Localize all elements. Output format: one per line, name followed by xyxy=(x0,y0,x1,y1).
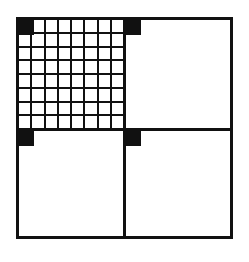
grid-cell xyxy=(99,103,110,115)
grid-cell xyxy=(46,34,57,46)
grid-cell xyxy=(72,61,83,73)
grid-cell xyxy=(72,89,83,101)
grid-cell xyxy=(59,20,70,32)
grid-cell xyxy=(59,48,70,60)
grid-cell xyxy=(46,20,57,32)
grid-cell xyxy=(112,116,123,128)
grid-cell xyxy=(72,20,83,32)
grid-cell xyxy=(72,48,83,60)
grid-cell xyxy=(19,89,30,101)
grid-cell xyxy=(32,89,43,101)
marker-bottom-left xyxy=(19,131,34,146)
grid-cell xyxy=(112,48,123,60)
grid-cell xyxy=(46,61,57,73)
grid-cell xyxy=(46,103,57,115)
grid-cell xyxy=(112,89,123,101)
grid-cell xyxy=(72,116,83,128)
grid-cell xyxy=(46,116,57,128)
horizontal-divider xyxy=(16,128,233,131)
grid-cell xyxy=(19,34,30,46)
grid-cell xyxy=(19,75,30,87)
marker-bottom-right xyxy=(126,131,141,146)
grid-cell xyxy=(99,61,110,73)
grid-cell xyxy=(59,89,70,101)
grid-cell xyxy=(19,61,30,73)
grid-cell xyxy=(32,75,43,87)
grid-cell xyxy=(59,34,70,46)
grid-cell xyxy=(99,89,110,101)
grid-cell xyxy=(46,89,57,101)
grid-cell xyxy=(19,103,30,115)
grid-cell xyxy=(72,75,83,87)
grid-cell xyxy=(32,116,43,128)
grid-cell xyxy=(46,75,57,87)
grid-cell xyxy=(99,48,110,60)
grid-cell xyxy=(112,20,123,32)
grid-cell xyxy=(32,48,43,60)
grid-cell xyxy=(46,48,57,60)
grid-cell xyxy=(72,34,83,46)
grid-cell xyxy=(112,75,123,87)
grid-cell xyxy=(59,103,70,115)
grid-cell xyxy=(112,103,123,115)
grid-cell xyxy=(99,20,110,32)
grid-cell xyxy=(59,75,70,87)
marker-top-right xyxy=(126,20,141,35)
grid-cell xyxy=(32,61,43,73)
grid-cell xyxy=(99,34,110,46)
grid-cell xyxy=(85,20,96,32)
grid-cell xyxy=(85,103,96,115)
grid-cell xyxy=(85,75,96,87)
grid-cell xyxy=(112,34,123,46)
grid-cell xyxy=(19,116,30,128)
grid-cell xyxy=(85,48,96,60)
grid-cell xyxy=(59,61,70,73)
grid-cell xyxy=(59,116,70,128)
marker-top-left xyxy=(19,20,34,35)
grid-cell xyxy=(19,48,30,60)
grid-cell xyxy=(85,61,96,73)
grid-cell xyxy=(99,116,110,128)
grid-cell xyxy=(85,34,96,46)
top-left-quadrant-grid xyxy=(19,20,123,128)
grid-cell xyxy=(72,103,83,115)
grid-cell xyxy=(112,61,123,73)
grid-cell xyxy=(85,89,96,101)
grid-cell xyxy=(32,34,43,46)
grid-cell xyxy=(32,103,43,115)
grid-cell xyxy=(85,116,96,128)
grid-cell xyxy=(99,75,110,87)
